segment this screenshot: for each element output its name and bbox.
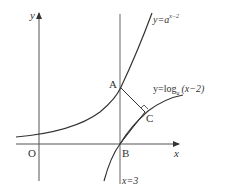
function-graph: y x O A B C y=ax−2 y=loga(x−2) x=3 [0,0,233,194]
point-A-label: A [109,78,117,90]
point-C-label: C [146,112,153,124]
segment-BC [120,112,145,144]
y-axis-label: y [29,9,35,21]
origin-label: O [28,147,36,159]
logarithm-label: y=loga(x−2) [153,83,205,96]
vertical-line-label: x=3 [121,175,138,186]
logarithm-curve [104,95,183,181]
exponential-label: y=ax−2 [152,13,179,25]
point-B-label: B [122,147,129,159]
x-axis-label: x [173,147,179,159]
exponential-curve [16,13,152,137]
